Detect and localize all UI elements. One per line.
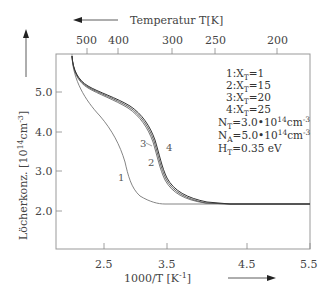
- top-tick-300: 300: [162, 34, 183, 47]
- curve-label-1: 1: [118, 172, 124, 183]
- y-tick-4: 4.0: [35, 126, 53, 139]
- x-tick-4.5: 4.5: [238, 258, 256, 271]
- top-tick-400: 400: [108, 34, 129, 47]
- top-axis-arrow-icon: [73, 17, 118, 23]
- legend: 1:XT=1 2:XT=15 3:XT=20 4:XT=25 NT=3.0•10…: [218, 67, 311, 157]
- y-tick-5: 5.0: [35, 86, 53, 99]
- y-axis-title: Löcherkonz. [1014cm-3]: [16, 111, 30, 240]
- top-axis-title: Temperatur T[K]: [130, 14, 223, 27]
- y-ticks: [56, 92, 62, 211]
- x-tick-3.5: 3.5: [158, 258, 176, 271]
- top-tick-500: 500: [76, 34, 97, 47]
- chart: Temperatur T[K] Löcherkonz. [1014cm-3] 5…: [0, 0, 330, 301]
- x-axis-title: 1000/T [K-1]: [124, 271, 191, 285]
- top-tick-250: 250: [205, 34, 226, 47]
- y-axis-arrow-icon: [23, 29, 29, 77]
- curve-label-2: 2: [148, 157, 154, 168]
- legend-ht: HT=0.35 eV: [218, 142, 282, 157]
- y-tick-3: 3.0: [35, 165, 53, 178]
- x-tick-2.5: 2.5: [95, 258, 113, 271]
- top-tick-200: 200: [267, 34, 288, 47]
- x-axis-arrow-icon: [228, 275, 276, 281]
- top-ticks: [72, 48, 277, 58]
- curve-label-3-leader: [146, 143, 152, 146]
- curve-label-4: 4: [166, 142, 172, 153]
- curve-label-3: 3: [140, 138, 146, 149]
- y-tick-2: 2.0: [35, 205, 53, 218]
- x-tick-5.5: 5.5: [300, 258, 318, 271]
- x-ticks: [104, 243, 310, 249]
